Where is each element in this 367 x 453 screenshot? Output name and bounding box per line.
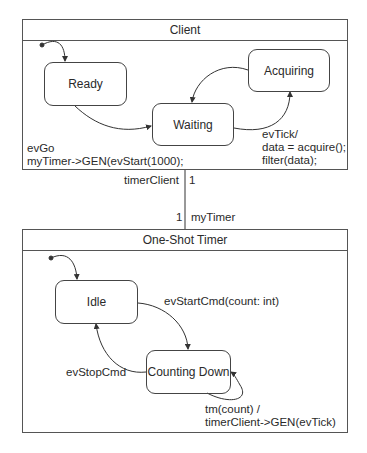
tick-transition-label: evTick/ data = acquire(); filter(data); [262, 128, 346, 167]
state-waiting-label: Waiting [173, 118, 213, 132]
tick-action-acquire: data = acquire(); [262, 141, 346, 154]
timer-role-label: myTimer [191, 211, 235, 224]
timer-header: One-Shot Timer [23, 230, 347, 251]
start-cmd-label: evStartCmd(count: int) [164, 295, 279, 308]
state-acquiring-label: Acquiring [264, 64, 314, 78]
client-title: Client [170, 23, 201, 37]
timer-title: One-Shot Timer [143, 233, 228, 247]
tm-event: tm(count) / [205, 403, 336, 416]
tick-event: evTick/ [262, 128, 346, 141]
state-ready[interactable]: Ready [44, 62, 127, 106]
state-acquiring[interactable]: Acquiring [248, 49, 330, 92]
timer-multiplicity: 1 [176, 211, 182, 224]
client-role-label: timerClient [124, 174, 179, 187]
state-waiting[interactable]: Waiting [152, 103, 234, 146]
client-header: Client [23, 20, 347, 41]
state-idle[interactable]: Idle [55, 280, 138, 324]
tm-action: timerClient->GEN(evTick) [205, 416, 336, 429]
state-ready-label: Ready [68, 77, 103, 91]
tick-action-filter: filter(data); [262, 154, 346, 167]
go-event: evGo [27, 142, 183, 155]
go-action: myTimer->GEN(evStart(1000); [27, 155, 183, 168]
state-idle-label: Idle [87, 295, 106, 309]
state-counting-down-label: Counting Down [147, 365, 229, 379]
go-transition-label: evGo myTimer->GEN(evStart(1000); [27, 142, 183, 168]
state-counting-down[interactable]: Counting Down [146, 350, 231, 394]
client-multiplicity: 1 [189, 174, 195, 187]
tm-transition-label: tm(count) / timerClient->GEN(evTick) [205, 403, 336, 429]
stop-cmd-label: evStopCmd [66, 366, 126, 379]
